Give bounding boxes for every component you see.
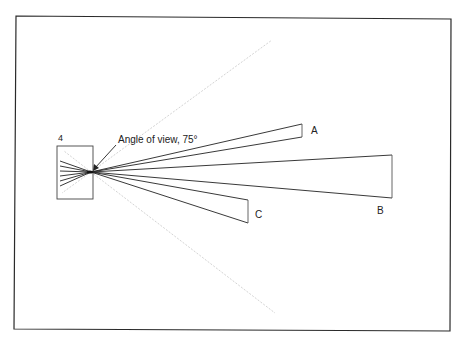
angle-of-view-label: Angle of view, 75°	[118, 134, 198, 145]
object-label-b: B	[377, 205, 384, 216]
ray-to-object-c	[91, 172, 248, 223]
rear-ray	[60, 172, 91, 181]
object-labels: ABC	[255, 125, 384, 220]
object-label-a: A	[311, 125, 318, 136]
view-boundary-upper	[91, 40, 272, 172]
ray-to-object-a	[91, 124, 302, 172]
view-boundary-lower-rear	[64, 151, 91, 172]
annotation-arrow	[95, 145, 116, 168]
rear-rays	[60, 161, 91, 186]
ray-to-object-c	[91, 172, 248, 200]
ray-to-object-b	[91, 155, 392, 172]
focal-point	[87, 170, 93, 173]
view-boundary-lower	[91, 172, 275, 313]
ray-to-object-b	[91, 172, 392, 198]
film-box-label: 4	[58, 133, 63, 143]
angle-of-view-diagram: 4 ABC Angle of view, 75°	[0, 0, 464, 341]
object-label-c: C	[255, 209, 262, 220]
objects	[248, 124, 392, 223]
